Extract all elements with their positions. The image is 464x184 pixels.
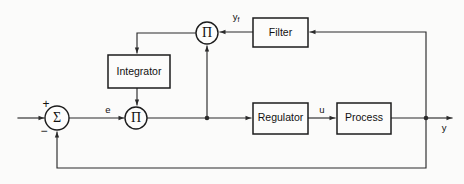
multiplier-lower[interactable]: Π — [125, 107, 147, 129]
block-regulator[interactable]: Regulator — [253, 103, 308, 134]
multiplier-lower-symbol: Π — [131, 110, 141, 125]
signal-label-error: e — [105, 104, 110, 115]
wire-product-upper-to-integrator — [137, 33, 196, 53]
junction-dot-output — [424, 116, 429, 121]
signal-label-filtered-output-subscript: f — [237, 15, 239, 22]
summing-junction-symbol: Σ — [53, 110, 61, 125]
block-process-label: Process — [345, 111, 383, 123]
block-integrator[interactable]: Integrator — [108, 55, 170, 88]
signal-label-output: y — [442, 122, 447, 133]
signal-label-filtered-output: yf — [233, 11, 240, 23]
multiplier-upper[interactable]: Π — [196, 22, 218, 44]
plus-sign: + — [42, 97, 49, 111]
block-diagram-canvas: Integrator Filter Regulator Process Σ Π … — [0, 0, 464, 184]
block-integrator-label: Integrator — [117, 65, 162, 77]
block-process[interactable]: Process — [337, 103, 391, 134]
signal-label-control: u — [319, 104, 324, 115]
block-filter-label: Filter — [269, 26, 293, 38]
block-filter[interactable]: Filter — [253, 18, 308, 47]
multiplier-upper-symbol: Π — [202, 25, 212, 40]
junction-dot-mid — [205, 116, 210, 121]
block-diagram-svg: Integrator Filter Regulator Process Σ Π … — [0, 0, 464, 184]
minus-sign: − — [40, 124, 47, 138]
block-regulator-label: Regulator — [258, 111, 304, 123]
